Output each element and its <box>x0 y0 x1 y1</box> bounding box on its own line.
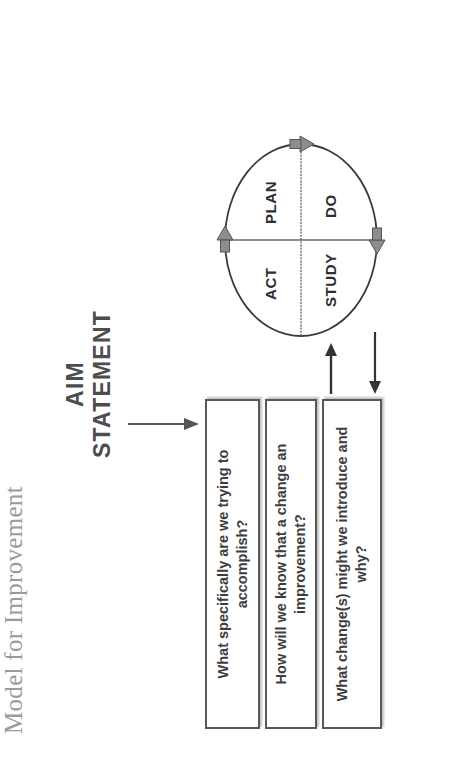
diagram-canvas: Model for Improvement AIM STATEMENT What… <box>0 0 452 772</box>
question-box-1[interactable]: What specifically are we trying to accom… <box>205 399 260 729</box>
pdsa-cycle: ACT PLAN STUDY DO <box>222 140 380 340</box>
question-box-3[interactable]: What change(s) might we introduce and wh… <box>322 399 382 729</box>
aim-statement-line-1: AIM <box>62 284 89 484</box>
rotated-artwork-wrapper: Model for Improvement AIM STATEMENT What… <box>0 0 452 772</box>
down-arrow-icon <box>128 416 200 432</box>
pdsa-quadrant-do: DO <box>322 194 339 218</box>
pdsa-quadrant-study: STUDY <box>322 253 339 307</box>
aim-statement: AIM STATEMENT <box>62 284 115 484</box>
page-title: Model for Improvement <box>0 486 28 734</box>
connector-arrow-box-to-cycle-icon <box>322 342 340 394</box>
question-box-2-label: How will we know that a change an improv… <box>272 415 309 713</box>
connector-arrow-cycle-to-box-icon <box>366 332 384 394</box>
pdsa-quadrant-plan: PLAN <box>262 181 279 224</box>
question-box-2[interactable]: How will we know that a change an improv… <box>265 399 317 729</box>
question-box-3-label: What change(s) might we introduce and wh… <box>333 415 370 713</box>
pdsa-quadrant-act: ACT <box>262 267 279 300</box>
question-box-1-label: What specifically are we trying to accom… <box>214 415 251 713</box>
aim-statement-line-2: STATEMENT <box>89 284 116 484</box>
